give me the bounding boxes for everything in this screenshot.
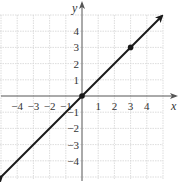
y-tick-label: −2 [67, 122, 79, 134]
coordinate-plane: −4−3−2−11234−4−3−2−11234 x y [0, 0, 179, 182]
x-tick-label: 3 [128, 100, 134, 112]
x-tick-label: −3 [28, 100, 40, 112]
x-tick-label: 1 [95, 100, 101, 112]
x-tick-label: 4 [144, 100, 150, 112]
y-tick-label: −4 [67, 155, 79, 167]
data-point [79, 93, 85, 99]
y-tick-label: 2 [74, 58, 80, 70]
x-axis-label: x [170, 99, 177, 113]
x-tick-label: −2 [44, 100, 56, 112]
x-tick-label: 2 [112, 100, 118, 112]
y-tick-label: 4 [74, 25, 80, 37]
data-point [128, 45, 134, 51]
y-tick-label: 1 [74, 74, 80, 86]
x-tick-label: −4 [11, 100, 23, 112]
y-axis-label: y [71, 1, 78, 15]
axes [1, 3, 176, 181]
y-tick-label: −3 [67, 139, 79, 151]
y-tick-label: 3 [74, 41, 80, 53]
